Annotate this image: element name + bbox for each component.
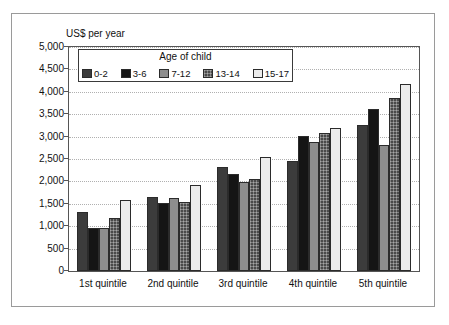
x-axis-tick-label: 5th quintile xyxy=(359,278,407,289)
gridline xyxy=(69,47,419,48)
bar xyxy=(319,133,330,271)
bar xyxy=(249,179,260,271)
legend-swatch-icon xyxy=(159,69,169,78)
bar xyxy=(368,109,379,271)
x-axis-tick-label: 3rd quintile xyxy=(219,278,268,289)
bar xyxy=(77,212,88,271)
legend-item-label: 15-17 xyxy=(265,68,289,79)
bar xyxy=(309,142,320,271)
y-axis-tick-mark xyxy=(64,248,68,249)
legend-swatch-icon xyxy=(121,69,131,78)
bar xyxy=(109,218,120,271)
y-axis-tick-mark xyxy=(64,68,68,69)
gridline xyxy=(69,92,419,93)
legend-item[interactable]: 13-14 xyxy=(203,68,239,79)
y-axis-tick-label: 4,500 xyxy=(18,63,64,74)
bar xyxy=(179,202,190,271)
y-axis-tick-label: 1,500 xyxy=(18,197,64,208)
bar xyxy=(298,136,309,271)
y-axis-tick-label: 2,000 xyxy=(18,175,64,186)
y-axis-tick-label: 3,000 xyxy=(18,130,64,141)
legend-item-label: 3-6 xyxy=(133,68,147,79)
legend-items: 0-23-67-1213-1415-17 xyxy=(82,66,289,80)
y-axis-tick-mark xyxy=(64,46,68,47)
legend-item-label: 13-14 xyxy=(215,68,239,79)
bar xyxy=(158,203,169,271)
y-axis-tick-label: 2,500 xyxy=(18,153,64,164)
bar xyxy=(239,182,250,271)
bar xyxy=(217,167,228,271)
bar xyxy=(379,145,390,271)
y-axis-tick-mark xyxy=(64,180,68,181)
y-axis-tick-label: 500 xyxy=(18,242,64,253)
y-axis-tick-mark xyxy=(64,113,68,114)
y-axis-tick-label: 3,500 xyxy=(18,108,64,119)
legend-item[interactable]: 7-12 xyxy=(159,68,190,79)
legend-item[interactable]: 0-2 xyxy=(82,68,108,79)
x-axis-tick-label: 4th quintile xyxy=(289,278,337,289)
y-axis-tick-label: 5,000 xyxy=(18,41,64,52)
bar xyxy=(400,84,411,271)
y-axis-tick-mark xyxy=(64,203,68,204)
y-axis-tick-label: 1,000 xyxy=(18,220,64,231)
bar xyxy=(169,198,180,271)
y-axis-tick-mark xyxy=(64,270,68,271)
legend-item[interactable]: 3-6 xyxy=(121,68,147,79)
x-axis-tick-labels: 1st quintile2nd quintile3rd quintile4th … xyxy=(68,278,420,292)
legend-item-label: 0-2 xyxy=(94,68,108,79)
legend-item-label: 7-12 xyxy=(171,68,190,79)
bar xyxy=(190,185,201,271)
y-axis-tick-mark xyxy=(64,91,68,92)
chart-figure: US$ per year 05001,0001,5002,0002,5003,0… xyxy=(0,0,449,325)
bar xyxy=(287,161,298,271)
y-axis-tick-mark xyxy=(64,136,68,137)
legend-title: Age of child xyxy=(79,51,292,62)
bar xyxy=(357,125,368,271)
x-axis-tick-label: 1st quintile xyxy=(79,278,127,289)
y-axis-title: US$ per year xyxy=(66,28,125,39)
chart-legend: Age of child 0-23-67-1213-1415-17 xyxy=(78,49,293,82)
x-axis-tick-label: 2nd quintile xyxy=(147,278,198,289)
y-axis-tick-label: 0 xyxy=(18,265,64,276)
legend-item[interactable]: 15-17 xyxy=(253,68,289,79)
gridline xyxy=(69,114,419,115)
y-axis-tick-label: 4,000 xyxy=(18,85,64,96)
bar xyxy=(99,228,110,271)
bar xyxy=(260,157,271,271)
bar xyxy=(389,98,400,271)
bar xyxy=(120,200,131,271)
y-axis-tick-mark xyxy=(64,225,68,226)
bar xyxy=(88,228,99,271)
bar xyxy=(330,128,341,271)
y-axis-tick-labels: 05001,0001,5002,0002,5003,0003,5004,0004… xyxy=(18,46,64,272)
bar xyxy=(147,197,158,271)
bar xyxy=(228,174,239,271)
legend-swatch-icon xyxy=(82,69,92,78)
legend-swatch-icon xyxy=(203,69,213,78)
y-axis-tick-mark xyxy=(64,158,68,159)
legend-swatch-icon xyxy=(253,69,263,78)
